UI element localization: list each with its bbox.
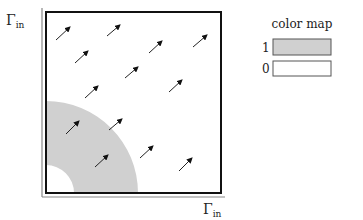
arrow-icon xyxy=(140,146,153,158)
diagram-canvas: Γin Γin color map 1 0 xyxy=(0,0,363,220)
legend-label-0: 0 xyxy=(262,62,270,76)
arrow-icon xyxy=(169,80,182,92)
gray-annulus-region xyxy=(0,101,138,220)
color-map-legend: color map 1 0 xyxy=(262,17,333,76)
legend-swatch-1 xyxy=(273,39,331,55)
arrow-icon xyxy=(85,86,98,98)
arrow-icon xyxy=(149,41,162,53)
arrow-icon xyxy=(56,27,70,40)
arrow-icon xyxy=(125,67,138,78)
legend-title: color map xyxy=(272,17,333,31)
arrow-icon xyxy=(193,35,207,47)
arrow-icon xyxy=(179,158,192,171)
x-axis-label: Γin xyxy=(203,201,222,219)
y-axis-label: Γin xyxy=(6,12,25,30)
arrow-icon xyxy=(75,51,88,63)
arrow-icon xyxy=(107,25,120,36)
legend-label-1: 1 xyxy=(262,41,270,55)
arrow-icon xyxy=(109,119,122,130)
legend-swatch-0 xyxy=(273,61,331,76)
